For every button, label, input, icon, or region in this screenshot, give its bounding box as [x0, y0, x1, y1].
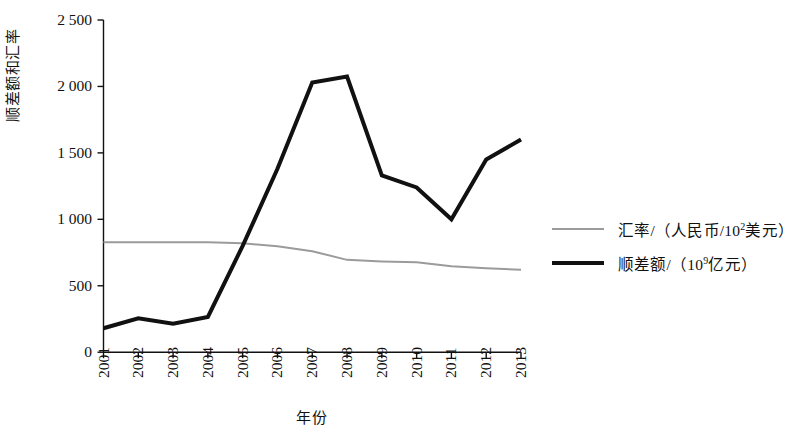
x-axis-tick-label: 2013 [511, 358, 563, 378]
legend-swatch-trade-surplus [552, 256, 604, 270]
line-chart: 顺差额和汇率 05001 0001 5002 0002 500 20012002… [0, 0, 807, 429]
legend-item-label: 顺差额/（109亿元） [618, 252, 757, 274]
legend-item[interactable]: 顺差额/（109亿元） [552, 246, 807, 280]
chart-legend: 汇率/（人民币/102美元）顺差额/（109亿元） [552, 212, 807, 280]
x-axis-title: 年份 [262, 406, 362, 427]
legend-item-label: 汇率/（人民币/102美元） [618, 218, 794, 240]
legend-item[interactable]: 汇率/（人民币/102美元） [552, 212, 807, 246]
legend-swatch-exchange-rate [552, 222, 604, 236]
